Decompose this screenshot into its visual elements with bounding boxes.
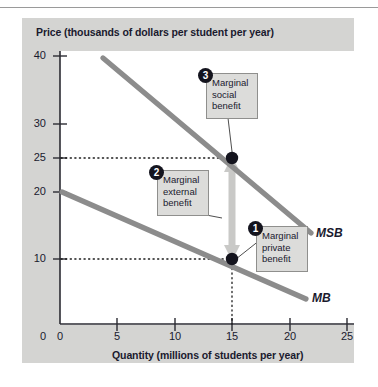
- callout-1-line-2: private: [262, 242, 303, 254]
- callout-badge-3: 3: [198, 68, 213, 83]
- social-equilibrium-dot: [226, 152, 238, 164]
- callout-2-line-3: benefit: [163, 197, 204, 209]
- callout-1-line-1: Marginal: [262, 230, 303, 242]
- figure-root: Price (thousands of dollars per student …: [0, 0, 378, 387]
- y-tick-label-40: 40: [22, 49, 46, 61]
- callout-marginal-social-benefit: Marginal social benefit: [206, 73, 258, 119]
- callout-3-line-2: social: [212, 89, 253, 101]
- msb-curve-label: MSB: [316, 226, 343, 240]
- callout-marginal-private-benefit: Marginal private benefit: [256, 226, 308, 272]
- callout-2-line-2: external: [163, 186, 204, 198]
- x-tick-label-0: 0: [48, 330, 72, 342]
- callout-3-line-1: Marginal: [212, 77, 253, 89]
- x-tick-label-25: 25: [335, 330, 359, 342]
- callout-badge-2: 2: [149, 165, 164, 180]
- callout-1-line-3: benefit: [262, 253, 303, 265]
- mb-curve-label: MB: [312, 291, 331, 305]
- y-tick-label-10: 10: [22, 252, 46, 264]
- x-tick-label-5: 5: [105, 330, 129, 342]
- callout-marginal-external-benefit: Marginal external benefit: [157, 170, 209, 216]
- callout-2-line-1: Marginal: [163, 174, 204, 186]
- x-tick-label-15: 15: [220, 330, 244, 342]
- y-tick-label-20: 20: [22, 185, 46, 197]
- y-tick-label-25: 25: [22, 151, 46, 163]
- callout-3-line-3: benefit: [212, 100, 253, 112]
- y-axis-title: Price (thousands of dollars per student …: [36, 26, 274, 38]
- y-tick-label-30: 30: [22, 117, 46, 129]
- x-tick-label-10: 10: [163, 330, 187, 342]
- x-tick-label-20: 20: [278, 330, 302, 342]
- y-tick-label-0: 0: [22, 330, 46, 342]
- x-axis-title: Quantity (millions of students per year): [112, 349, 303, 361]
- callout-badge-1: 1: [248, 221, 263, 236]
- private-equilibrium-dot: [226, 253, 238, 265]
